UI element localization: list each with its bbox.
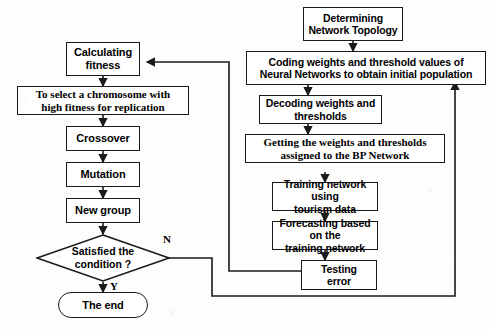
node-determining-topology-label: DeterminingNetwork Topology (304, 12, 402, 37)
node-select-chromosome[interactable]: To select a chromosome withhigh fitness … (17, 86, 189, 115)
node-forecasting[interactable]: Forecasting based on thetraining network (272, 221, 378, 250)
edge-label-no: N (163, 233, 171, 245)
node-new-group-label: New group (67, 204, 139, 217)
node-coding-weights[interactable]: Coding weights and threshold values ofNe… (246, 51, 486, 85)
node-new-group[interactable]: New group (66, 198, 140, 223)
flowchart-canvas: Calculatingfitness To select a chromosom… (0, 0, 490, 329)
node-determining-topology[interactable]: DeterminingNetwork Topology (303, 7, 403, 41)
edge-label-no-text: N (163, 233, 171, 245)
node-training-network-label: Training network usingtourism data (273, 178, 377, 215)
node-crossover-label: Crossover (67, 132, 139, 145)
node-select-chromosome-label: To select a chromosome withhigh fitness … (18, 88, 188, 114)
node-getting-weights-label: Getting the weights and thresholdsassign… (246, 136, 444, 162)
node-mutation-label: Mutation (67, 168, 139, 181)
node-the-end-label: The end (59, 299, 147, 312)
node-the-end[interactable]: The end (58, 292, 148, 318)
node-crossover[interactable]: Crossover (66, 126, 140, 151)
node-training-network[interactable]: Training network usingtourism data (272, 182, 378, 211)
node-forecasting-label: Forecasting based on thetraining network (273, 217, 377, 254)
node-testing-error[interactable]: Testingerror (301, 260, 377, 290)
node-mutation[interactable]: Mutation (66, 162, 140, 187)
node-decoding-weights[interactable]: Decoding weights andthresholds (259, 95, 382, 124)
node-decoding-weights-label: Decoding weights andthresholds (260, 97, 381, 122)
node-calculating-fitness[interactable]: Calculatingfitness (66, 42, 140, 76)
node-calculating-fitness-label: Calculatingfitness (67, 46, 139, 72)
node-satisfied-condition[interactable]: Satisfied thecondition ? (36, 234, 170, 282)
node-coding-weights-label: Coding weights and threshold values ofNe… (247, 56, 485, 81)
edge-label-yes: Y (110, 280, 118, 292)
edge-label-yes-text: Y (110, 280, 118, 292)
node-getting-weights[interactable]: Getting the weights and thresholdsassign… (245, 134, 445, 163)
node-testing-error-label: Testingerror (302, 263, 376, 288)
